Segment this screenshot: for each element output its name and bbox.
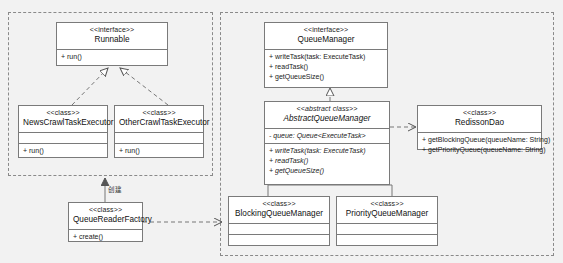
class-redissondao-stereotype: <<class>> (422, 109, 537, 118)
member-getblockingqueue: + getBlockingQueue(queueName: String) (422, 135, 537, 145)
member-writetask: + writeTask(task: ExecuteTask) (269, 146, 385, 156)
class-othercrawltaskexecutor-methods: + run() (115, 143, 203, 158)
diagram-canvas: 创建 <<interface>> Runnable + run() <<clas… (0, 0, 563, 263)
class-abstractqueuemanager-stereotype: <<abstract class>> (269, 105, 385, 114)
class-redissondao[interactable]: <<class>> RedissonDao + getBlockingQueue… (417, 105, 542, 150)
class-redissondao-name: RedissonDao (422, 118, 537, 128)
class-othercrawltaskexecutor-name: OtherCrawlTaskExecutor (119, 118, 199, 128)
class-queuereaderfactory-header: <<class>> QueueReaderFactory (69, 203, 142, 229)
class-queuemanager-name: QueueManager (269, 35, 383, 45)
member-queue: - queue: Queue<ExecuteTask> (269, 131, 385, 141)
class-blockingqueuemanager-name: BlockingQueueManager (233, 209, 325, 219)
class-runnable-header: <<interface>> Runnable (57, 23, 167, 49)
class-priorityqueuemanager-header: <<class>> PriorityQueueManager (337, 197, 437, 223)
class-othercrawltaskexecutor-header: <<class>> OtherCrawlTaskExecutor (115, 106, 203, 132)
class-newscrawltaskexecutor-header: <<class>> NewsCrawlTaskExecutor (19, 106, 107, 132)
class-blockingqueuemanager-header: <<class>> BlockingQueueManager (229, 197, 329, 223)
class-priorityqueuemanager[interactable]: <<class>> PriorityQueueManager (336, 196, 438, 246)
class-queuereaderfactory-methods: + create() (69, 229, 142, 244)
class-othercrawltaskexecutor[interactable]: <<class>> OtherCrawlTaskExecutor + run() (114, 105, 204, 158)
class-redissondao-header: <<class>> RedissonDao (418, 106, 541, 132)
class-redissondao-methods: + getBlockingQueue(queueName: String) + … (418, 132, 541, 157)
class-queuereaderfactory-stereotype: <<class>> (73, 206, 138, 215)
member-writetask: + writeTask(task: ExecuteTask) (269, 52, 383, 62)
class-runnable-methods: + run() (57, 49, 167, 64)
class-blockingqueuemanager-stereotype: <<class>> (233, 200, 325, 209)
class-othercrawltaskexecutor-stereotype: <<class>> (119, 109, 199, 118)
class-abstractqueuemanager-methods: + writeTask(task: ExecuteTask) + readTas… (265, 143, 389, 178)
class-othercrawltaskexecutor-attributes (115, 132, 203, 143)
member-getpriorityqueue: + getPriorityQueue(queueName: String) (422, 145, 537, 155)
member-getqueuesize: + getQueueSize() (269, 72, 383, 82)
member-run: + run() (61, 52, 163, 62)
member-run: + run() (23, 146, 103, 156)
member-readtask: + readTask() (269, 156, 385, 166)
class-runnable-name: Runnable (61, 35, 163, 45)
class-abstractqueuemanager-attributes: - queue: Queue<ExecuteTask> (265, 128, 389, 143)
class-blockingqueuemanager-methods (229, 234, 329, 245)
edge-label-create: 创建 (108, 184, 122, 194)
class-queuemanager-stereotype: <<interface>> (269, 26, 383, 35)
class-newscrawltaskexecutor-attributes (19, 132, 107, 143)
member-run: + run() (119, 146, 199, 156)
class-queuemanager-methods: + writeTask(task: ExecuteTask) + readTas… (265, 49, 387, 84)
class-newscrawltaskexecutor-stereotype: <<class>> (23, 109, 103, 118)
member-getqueuesize: + getQueueSize() (269, 166, 385, 176)
class-priorityqueuemanager-name: PriorityQueueManager (341, 209, 433, 219)
class-queuemanager-header: <<interface>> QueueManager (265, 23, 387, 49)
class-queuereaderfactory[interactable]: <<class>> QueueReaderFactory + create() (68, 202, 143, 242)
class-blockingqueuemanager-attributes (229, 223, 329, 234)
class-runnable[interactable]: <<interface>> Runnable + run() (56, 22, 168, 66)
class-priorityqueuemanager-stereotype: <<class>> (341, 200, 433, 209)
class-queuemanager[interactable]: <<interface>> QueueManager + writeTask(t… (264, 22, 388, 88)
class-queuereaderfactory-name: QueueReaderFactory (73, 215, 138, 225)
class-priorityqueuemanager-attributes (337, 223, 437, 234)
member-readtask: + readTask() (269, 62, 383, 72)
class-runnable-stereotype: <<interface>> (61, 26, 163, 35)
class-newscrawltaskexecutor-methods: + run() (19, 143, 107, 158)
class-priorityqueuemanager-methods (337, 234, 437, 245)
class-newscrawltaskexecutor-name: NewsCrawlTaskExecutor (23, 118, 103, 128)
class-blockingqueuemanager[interactable]: <<class>> BlockingQueueManager (228, 196, 330, 246)
class-abstractqueuemanager[interactable]: <<abstract class>> AbstractQueueManager … (264, 101, 390, 185)
class-abstractqueuemanager-header: <<abstract class>> AbstractQueueManager (265, 102, 389, 128)
class-newscrawltaskexecutor[interactable]: <<class>> NewsCrawlTaskExecutor + run() (18, 105, 108, 158)
member-create: + create() (73, 232, 138, 242)
class-abstractqueuemanager-name: AbstractQueueManager (269, 114, 385, 124)
